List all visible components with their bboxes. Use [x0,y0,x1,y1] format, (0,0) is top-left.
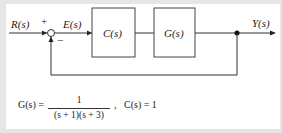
g-equation-lhs: G(s) = [18,99,44,110]
input-signal-label: R(s) [11,18,29,30]
g-fraction: 1 (s + 1)(s + 3) [48,95,110,120]
c-def-text: C(s) = 1 [124,99,157,110]
g-denominator: (s + 1)(s + 3) [48,110,110,120]
g-block-label: G(s) [164,27,184,39]
summing-junction [48,30,55,37]
fraction-bar [48,108,110,109]
c-block-label: C(s) [103,27,122,39]
error-signal-label: E(s) [63,18,81,30]
c-equation: C(s) = 1 [124,99,157,110]
separator: , [114,99,117,110]
g-lhs-text: G(s) = [18,99,44,110]
output-signal-label: Y(s) [252,17,270,29]
comma: , [114,99,117,110]
g-numerator: 1 [48,95,110,107]
plus-sign: + [41,15,47,27]
minus-sign: − [57,34,63,46]
